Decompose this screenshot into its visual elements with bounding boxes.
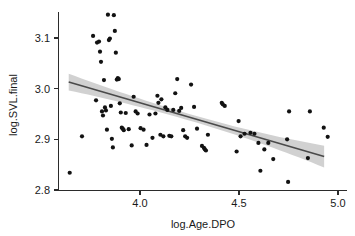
data-point <box>80 134 84 138</box>
data-point <box>97 39 101 43</box>
y-axis-title: log.SVL.final <box>7 74 19 136</box>
data-point <box>113 29 117 33</box>
y-tick-label: 2.8 <box>35 184 50 196</box>
x-tick-label: 5.0 <box>330 197 345 209</box>
data-point <box>161 134 165 138</box>
data-point <box>122 128 126 132</box>
data-point <box>287 109 291 113</box>
data-point <box>127 127 131 131</box>
data-point <box>256 141 260 145</box>
data-point <box>99 60 103 64</box>
data-point <box>91 34 95 38</box>
plot-background <box>0 0 355 236</box>
data-point <box>235 149 239 153</box>
x-tick-label: 4.5 <box>231 197 246 209</box>
data-point <box>252 132 256 136</box>
y-tick-label: 2.9 <box>35 133 50 145</box>
chart-canvas: 2.82.93.03.1 4.04.55.0 log.Age.DPO log.S… <box>0 0 355 236</box>
data-point <box>266 141 270 145</box>
data-point <box>242 132 246 136</box>
data-point <box>124 111 128 115</box>
data-point <box>155 94 159 98</box>
data-point <box>306 156 310 160</box>
data-point <box>173 91 177 95</box>
data-point <box>185 136 189 140</box>
x-tick-label: 4.0 <box>132 197 147 209</box>
data-point <box>119 110 123 114</box>
y-tick-label: 3.1 <box>35 32 50 44</box>
data-point <box>118 101 122 105</box>
data-point <box>156 101 160 105</box>
data-point <box>237 119 241 123</box>
data-point <box>326 135 330 139</box>
data-point <box>175 77 179 81</box>
data-point <box>117 77 121 81</box>
data-point <box>238 134 242 138</box>
data-point <box>114 51 118 55</box>
data-point <box>136 111 140 115</box>
data-point <box>150 136 154 140</box>
data-point <box>262 147 266 151</box>
data-point <box>94 98 98 102</box>
data-point <box>195 127 199 131</box>
data-point <box>110 137 114 141</box>
data-point <box>223 104 227 108</box>
scatter-plot-figure: 2.82.93.03.1 4.04.55.0 log.Age.DPO log.S… <box>0 0 355 236</box>
data-point <box>165 108 169 112</box>
data-point <box>144 143 148 147</box>
data-point <box>111 145 115 149</box>
data-point <box>153 111 157 115</box>
data-point <box>204 148 208 152</box>
data-point <box>105 128 109 132</box>
data-point <box>109 104 113 108</box>
data-point <box>322 126 326 130</box>
data-point <box>108 36 112 40</box>
data-point <box>286 180 290 184</box>
data-point <box>112 13 116 17</box>
data-point <box>104 108 108 112</box>
data-point <box>106 13 110 17</box>
data-point <box>159 97 163 101</box>
data-point <box>248 131 252 135</box>
data-point <box>169 134 173 138</box>
data-point <box>271 157 275 161</box>
y-tick-label: 3.0 <box>35 83 50 95</box>
data-point <box>101 113 105 117</box>
data-point <box>147 112 151 116</box>
data-point <box>130 143 134 147</box>
data-point <box>141 128 145 132</box>
data-point <box>308 109 312 113</box>
data-point <box>179 106 183 110</box>
x-axis-title: log.Age.DPO <box>171 218 236 230</box>
data-point <box>102 78 106 82</box>
data-point <box>98 50 102 54</box>
data-point <box>132 95 136 99</box>
data-point <box>68 171 72 175</box>
data-point <box>189 83 193 87</box>
data-point <box>285 137 289 141</box>
data-point <box>100 109 104 113</box>
data-point <box>171 108 175 112</box>
data-point <box>258 169 262 173</box>
data-point <box>192 105 196 109</box>
data-point <box>206 133 210 137</box>
data-point <box>181 128 185 132</box>
